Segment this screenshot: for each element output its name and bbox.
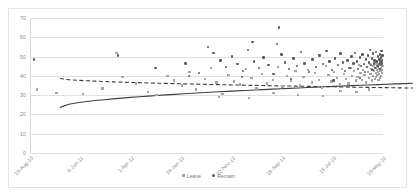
data-point-leave	[204, 78, 206, 80]
data-point-leave	[36, 88, 38, 90]
data-point-leave	[173, 79, 175, 81]
data-point-remain	[346, 59, 348, 61]
data-point-leave	[195, 88, 197, 90]
data-point-leave	[381, 69, 383, 71]
x-axis-tick-label: 6-Jun-11	[66, 155, 84, 173]
data-point-remain	[361, 53, 363, 55]
data-point-remain	[303, 62, 305, 64]
data-point-leave	[333, 71, 335, 73]
data-point-leave	[245, 68, 247, 70]
data-point-remain	[375, 51, 377, 53]
legend-marker-leave-icon	[182, 174, 185, 177]
data-point-remain	[280, 53, 282, 55]
data-point-remain	[365, 58, 367, 60]
data-point-leave	[351, 75, 353, 77]
data-point-leave	[321, 86, 323, 88]
y-axis-tick-label: 10	[20, 131, 26, 137]
data-point-leave	[166, 75, 168, 77]
data-point-leave	[339, 83, 341, 85]
data-point-leave	[343, 73, 345, 75]
legend-item-remain: Remain	[212, 172, 235, 179]
data-point-leave	[286, 75, 288, 77]
data-point-leave	[294, 70, 296, 72]
data-point-remain	[334, 57, 336, 59]
data-point-leave	[381, 72, 383, 74]
data-point-leave	[363, 74, 365, 76]
data-point-remain	[342, 61, 344, 63]
data-point-leave	[272, 79, 274, 81]
data-point-leave	[121, 76, 123, 78]
data-point-leave	[221, 93, 223, 95]
data-point-leave	[135, 82, 137, 84]
y-axis-tick-label: 70	[20, 15, 26, 21]
data-point-remain	[231, 55, 233, 57]
y-axis-tick-label: 50	[20, 54, 26, 60]
data-point-leave	[302, 76, 304, 78]
legend-label-remain: Remain	[217, 173, 235, 179]
data-point-leave	[322, 95, 324, 97]
data-point-leave	[327, 74, 329, 76]
data-point-leave	[297, 94, 299, 96]
data-point-remain	[318, 54, 320, 56]
data-point-leave	[272, 92, 274, 94]
data-point-leave	[188, 71, 190, 73]
x-axis-tick-label: 1-Apr-12	[117, 155, 136, 174]
data-point-leave	[368, 88, 370, 90]
data-point-remain	[278, 26, 280, 28]
data-point-remain	[332, 79, 334, 81]
data-point-leave	[266, 82, 268, 84]
data-point-leave	[299, 84, 301, 86]
data-point-remain	[198, 72, 200, 74]
data-point-leave	[318, 79, 320, 81]
data-point-remain	[339, 52, 341, 54]
data-point-remain	[371, 69, 373, 71]
data-point-leave	[365, 81, 367, 83]
scatter-chart: 010203040506070 10-Aug-106-Jun-111-Apr-1…	[0, 0, 417, 196]
data-point-leave	[281, 85, 283, 87]
data-point-leave	[210, 67, 212, 69]
data-point-leave	[341, 68, 343, 70]
data-point-remain	[253, 60, 255, 62]
chart-legend: Leave Remain	[0, 172, 417, 179]
data-point-leave	[155, 94, 157, 96]
y-axis-tick-label: 30	[20, 92, 26, 98]
data-point-leave	[359, 72, 361, 74]
data-point-remain	[219, 59, 221, 61]
data-point-remain	[188, 75, 190, 77]
data-point-leave	[233, 80, 235, 82]
data-point-leave	[368, 77, 370, 79]
data-point-leave	[314, 72, 316, 74]
data-point-remain	[380, 50, 382, 52]
data-point-leave	[181, 84, 183, 86]
data-point-remain	[241, 76, 243, 78]
data-point-remain	[262, 56, 264, 58]
data-point-leave	[347, 82, 349, 84]
data-point-leave	[345, 78, 347, 80]
y-axis-tick-label: 40	[20, 73, 26, 79]
data-point-leave	[336, 77, 338, 79]
data-point-leave	[248, 97, 250, 99]
data-point-remain	[154, 67, 156, 69]
data-point-remain	[311, 58, 313, 60]
data-point-remain	[325, 50, 327, 52]
legend-label-leave: Leave	[187, 173, 201, 179]
y-axis-tick-label: 20	[20, 111, 26, 117]
data-point-leave	[261, 73, 263, 75]
data-point-leave	[311, 81, 313, 83]
data-point-remain	[272, 73, 274, 75]
data-point-leave	[218, 96, 220, 98]
data-point-leave	[239, 83, 241, 85]
data-point-remain	[352, 62, 354, 64]
data-point-remain	[284, 61, 286, 63]
data-point-remain	[356, 60, 358, 62]
data-point-leave	[380, 75, 382, 77]
data-point-leave	[55, 92, 57, 94]
legend-item-leave: Leave	[182, 172, 201, 179]
data-point-leave	[250, 77, 252, 79]
data-point-remain	[33, 58, 35, 60]
data-point-remain	[350, 55, 352, 57]
data-point-leave	[277, 66, 279, 68]
data-point-leave	[339, 90, 341, 92]
data-point-leave	[361, 79, 363, 81]
data-point-remain	[328, 60, 330, 62]
